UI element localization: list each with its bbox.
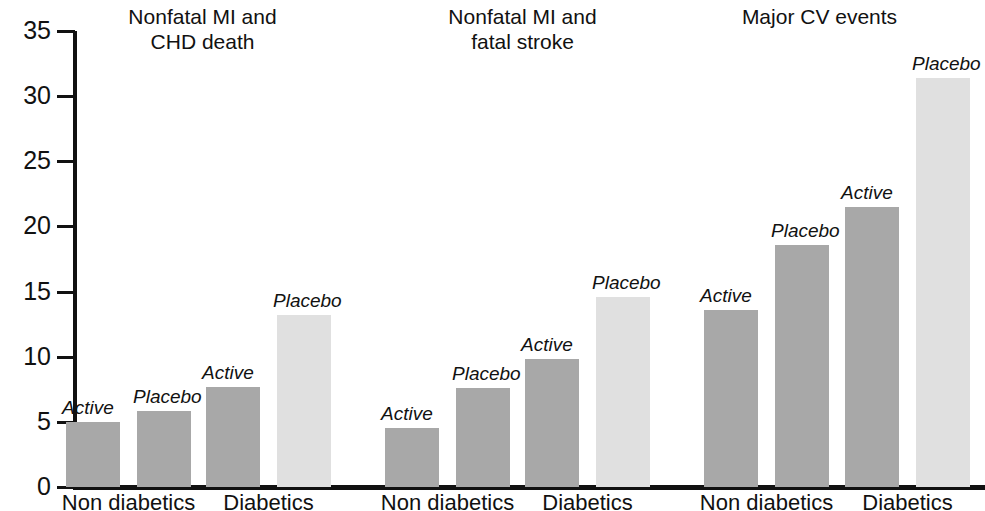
y-tick-mark-25 xyxy=(57,160,75,163)
bar-chart: 05101520253035 Nonfatal MI and CHD death… xyxy=(0,0,985,511)
bar-label-p1-2: Placebo xyxy=(133,387,202,406)
y-tick-mark-20 xyxy=(57,225,75,228)
bar-p3-active-non-diabetics xyxy=(704,310,758,487)
panel-title-2: Nonfatal MI and fatal stroke xyxy=(415,5,630,55)
bar-p1-placebo-non-diabetics xyxy=(137,411,191,487)
bar-label-p1-1: Active xyxy=(62,398,114,417)
bar-p1-active-diabetics xyxy=(206,387,260,487)
bar-p2-active-diabetics xyxy=(525,359,579,487)
y-tick-label-25: 25 xyxy=(7,148,51,173)
y-tick-mark-15 xyxy=(57,291,75,294)
bar-p1-active-non-diabetics xyxy=(66,422,120,487)
y-tick-label-5: 5 xyxy=(7,409,51,434)
x-group-label-6: Diabetics xyxy=(818,492,985,511)
bar-label-p3-2: Placebo xyxy=(771,221,840,240)
y-axis-line xyxy=(73,31,77,488)
bar-p2-active-non-diabetics xyxy=(385,428,439,487)
y-tick-label-20: 20 xyxy=(7,213,51,238)
bar-label-p3-1: Active xyxy=(700,286,752,305)
bar-p3-placebo-diabetics xyxy=(916,78,970,487)
y-tick-mark-10 xyxy=(57,356,75,359)
y-tick-label-15: 15 xyxy=(7,279,51,304)
panel-title-1: Nonfatal MI and CHD death xyxy=(95,5,310,55)
bar-p1-placebo-diabetics xyxy=(277,315,331,487)
bar-label-p3-3: Active xyxy=(841,183,893,202)
y-tick-mark-35 xyxy=(57,30,75,33)
bar-label-p1-3: Active xyxy=(202,363,254,382)
bar-p2-placebo-non-diabetics xyxy=(456,388,510,487)
y-tick-label-30: 30 xyxy=(7,83,51,108)
bar-label-p3-4: Placebo xyxy=(912,54,981,73)
bar-p3-placebo-non-diabetics xyxy=(775,245,829,487)
x-group-label-4: Diabetics xyxy=(498,492,678,511)
y-tick-label-10: 10 xyxy=(7,344,51,369)
bar-label-p1-4: Placebo xyxy=(273,291,342,310)
bar-p3-active-diabetics xyxy=(845,207,899,487)
panel-title-3: Major CV events xyxy=(712,5,927,30)
bar-label-p2-4: Placebo xyxy=(592,273,661,292)
y-tick-label-35: 35 xyxy=(7,18,51,43)
x-group-label-2: Diabetics xyxy=(179,492,359,511)
y-tick-mark-30 xyxy=(57,95,75,98)
bar-label-p2-1: Active xyxy=(381,404,433,423)
bar-label-p2-2: Placebo xyxy=(452,364,521,383)
bar-p2-placebo-diabetics xyxy=(596,297,650,487)
bar-label-p2-3: Active xyxy=(521,335,573,354)
